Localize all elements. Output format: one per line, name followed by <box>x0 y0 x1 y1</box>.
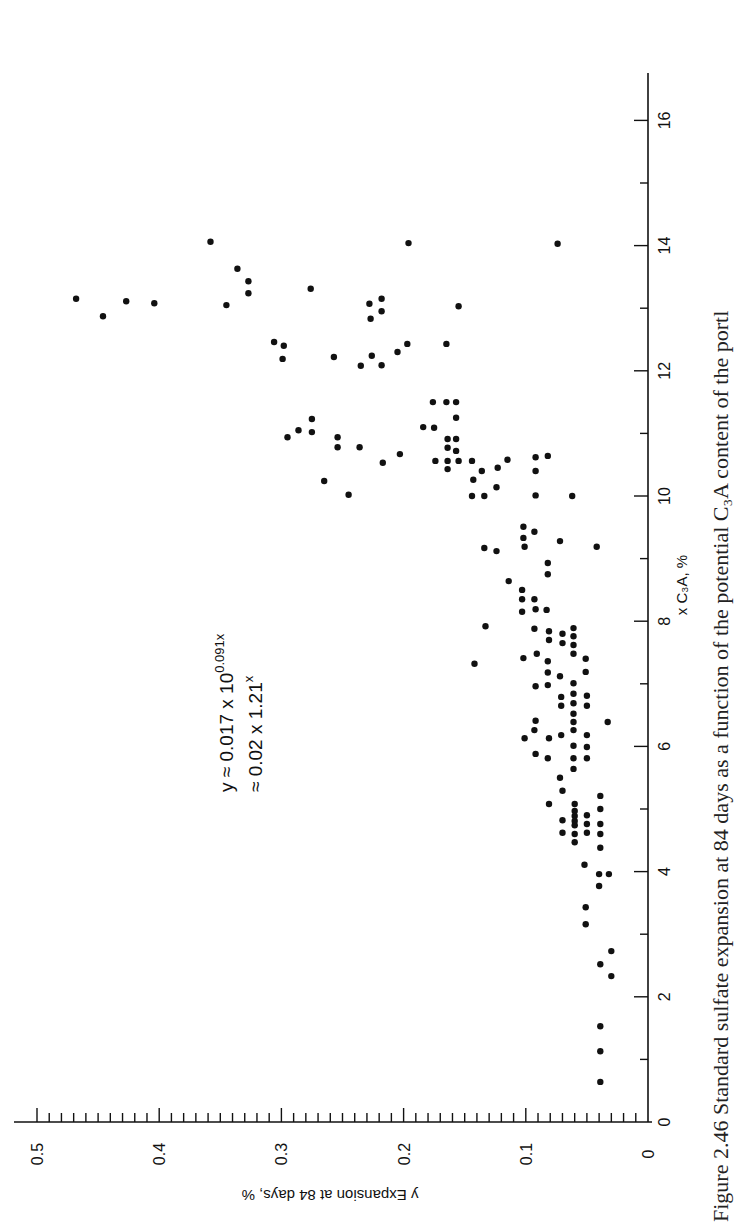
data-point <box>594 544 600 550</box>
data-point <box>453 448 459 454</box>
data-point <box>597 1048 603 1054</box>
data-point <box>223 302 229 308</box>
data-point <box>597 1023 603 1029</box>
y-axis-title: y Expansion at 84 days, % <box>242 1187 419 1204</box>
data-point <box>366 301 372 307</box>
data-point <box>608 973 614 979</box>
data-point <box>380 460 386 466</box>
data-point <box>430 399 436 405</box>
data-point <box>479 468 485 474</box>
data-point <box>281 343 287 349</box>
data-point <box>545 560 551 566</box>
data-point <box>581 862 587 868</box>
data-point <box>570 651 576 657</box>
data-point <box>532 683 538 689</box>
data-point <box>596 883 602 889</box>
data-point <box>481 545 487 551</box>
data-point <box>520 524 526 530</box>
data-point <box>570 755 576 761</box>
data-point <box>519 587 525 593</box>
data-point <box>557 538 563 544</box>
data-point <box>584 744 590 750</box>
fit-equation: y ≈ 0.017 x 100.091x ≈ 0.02 x 1.21x <box>212 633 266 792</box>
data-point <box>596 871 602 877</box>
data-point <box>73 296 79 302</box>
data-point <box>470 477 476 483</box>
data-point <box>532 751 538 757</box>
data-point <box>100 313 106 319</box>
x-tick-label: 14 <box>656 237 673 255</box>
x-tick-label: 8 <box>656 617 673 626</box>
data-point <box>545 571 551 577</box>
data-point <box>444 466 450 472</box>
data-point <box>356 444 362 450</box>
data-point <box>469 458 475 464</box>
data-point <box>570 633 576 639</box>
y-tick-label: 0.1 <box>518 1143 535 1165</box>
data-point <box>378 362 384 368</box>
data-point <box>597 793 603 799</box>
scatter-chart: 024681012141600.10.20.30.40.5 y ≈ 0.017 … <box>0 0 746 1222</box>
data-point <box>493 484 499 490</box>
data-point <box>584 693 590 699</box>
equation-line-1: y ≈ 0.017 x 100.091x <box>212 633 237 792</box>
data-point <box>443 341 449 347</box>
data-point <box>572 808 578 814</box>
data-point <box>532 718 538 724</box>
data-point <box>545 682 551 688</box>
data-point <box>554 241 560 247</box>
data-point <box>558 732 564 738</box>
data-point <box>453 415 459 421</box>
data-point <box>453 399 459 405</box>
data-point <box>558 694 564 700</box>
data-point <box>572 831 578 837</box>
data-point <box>520 655 526 661</box>
data-point <box>444 436 450 442</box>
data-point <box>532 492 538 498</box>
data-point <box>584 812 590 818</box>
data-point <box>531 727 537 733</box>
data-point <box>559 817 565 823</box>
data-point <box>543 607 549 613</box>
data-point <box>443 399 449 405</box>
x-tick-label: 4 <box>656 867 673 876</box>
data-point <box>308 286 314 292</box>
data-point <box>531 529 537 535</box>
data-point <box>532 606 538 612</box>
data-point <box>397 451 403 457</box>
data-point <box>123 298 129 304</box>
data-point <box>572 801 578 807</box>
data-point <box>545 669 551 675</box>
data-point <box>432 458 438 464</box>
x-tick-label: 2 <box>656 992 673 1001</box>
data-point <box>570 680 576 686</box>
data-point <box>431 425 437 431</box>
data-point <box>545 755 551 761</box>
data-point <box>519 609 525 615</box>
data-point <box>608 948 614 954</box>
x-tick-label: 0 <box>656 1117 673 1126</box>
data-point <box>493 548 499 554</box>
data-point <box>531 596 537 602</box>
data-point <box>559 631 565 637</box>
data-point <box>506 578 512 584</box>
data-point <box>584 821 590 827</box>
data-point <box>378 296 384 302</box>
figure-caption: Figure 2.46 Standard sulfate expansion a… <box>708 311 733 1222</box>
x-tick-label: 16 <box>656 111 673 129</box>
data-point <box>546 735 552 741</box>
data-point <box>597 831 603 837</box>
data-point <box>207 239 213 245</box>
data-point <box>545 453 551 459</box>
data-point <box>334 434 340 440</box>
data-point <box>453 436 459 442</box>
data-point <box>471 661 477 667</box>
data-point <box>369 353 375 359</box>
data-point <box>557 775 563 781</box>
data-point <box>545 658 551 664</box>
data-point <box>546 637 552 643</box>
data-point <box>521 544 527 550</box>
data-point <box>570 743 576 749</box>
data-point <box>532 468 538 474</box>
data-point <box>558 703 564 709</box>
